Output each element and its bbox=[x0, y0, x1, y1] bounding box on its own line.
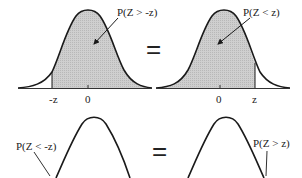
prob-label: P(Z > -z) bbox=[117, 6, 158, 19]
equals-sign-bottom: = bbox=[152, 136, 167, 166]
top-right-curve-panel: P(Z < z) 0 z bbox=[156, 6, 290, 105]
prob-label: P(Z < z) bbox=[243, 6, 280, 19]
bottom-right-curve-panel: P(Z > z) bbox=[188, 117, 290, 178]
tick-zero: 0 bbox=[216, 93, 222, 105]
prob-label: P(Z > z) bbox=[253, 137, 290, 150]
normal-distribution-diagram: P(Z > -z) -z 0 = P(Z < z) 0 z P(Z < -z) … bbox=[0, 0, 302, 178]
top-left-curve-panel: P(Z > -z) -z 0 bbox=[18, 6, 158, 105]
equals-sign-top: = bbox=[146, 34, 161, 64]
shaded-area bbox=[158, 10, 255, 88]
tick-z: z bbox=[252, 93, 257, 105]
prob-label: P(Z < -z) bbox=[16, 140, 57, 153]
bell-curve bbox=[56, 117, 130, 178]
shaded-area bbox=[52, 10, 150, 88]
bottom-left-curve-panel: P(Z < -z) bbox=[16, 117, 130, 178]
tick-zero: 0 bbox=[85, 93, 91, 105]
label-pointer bbox=[34, 152, 50, 176]
tick-minus-z: -z bbox=[49, 93, 58, 105]
label-pointer bbox=[266, 151, 267, 176]
